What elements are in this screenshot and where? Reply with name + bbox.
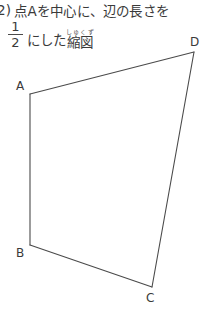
vertex-label-c: C xyxy=(146,292,154,304)
vertex-label-a: A xyxy=(16,80,24,92)
edge-a-to-d xyxy=(30,52,194,94)
edge-c-to-d xyxy=(152,52,194,287)
vertex-label-b: B xyxy=(16,247,24,259)
document-page: 2) 点Aを中心に、辺の長さを 1 2 にした しゅくず 縮図 A B C D xyxy=(0,0,211,310)
vertex-label-d: D xyxy=(190,36,199,48)
edge-b-to-c xyxy=(30,245,152,287)
quadrilateral-figure xyxy=(0,0,211,310)
quadrilateral-outline xyxy=(30,52,194,287)
